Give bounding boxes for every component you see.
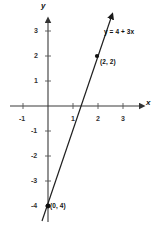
x-tick-label-1: 1 bbox=[71, 115, 75, 122]
y-tick-label-neg4: -4 bbox=[31, 202, 37, 209]
x-axis bbox=[10, 103, 140, 109]
x-tick-label-2: 2 bbox=[96, 115, 100, 122]
y-tick-label-neg1: -1 bbox=[31, 127, 37, 134]
y-tick-label-3: 3 bbox=[34, 27, 38, 34]
equation-annotation: y = 4 + 3x bbox=[104, 29, 134, 36]
x-tick-label-3: 3 bbox=[121, 115, 125, 122]
point-label-0-neg4: (0, 4) bbox=[50, 203, 66, 210]
x-axis-label: x bbox=[146, 99, 150, 107]
y-axis bbox=[45, 22, 51, 222]
y-tick-label-2: 2 bbox=[34, 52, 38, 59]
y-tick-label-1: 1 bbox=[34, 77, 38, 84]
cartesian-graph-figure: y x -1 1 2 3 3 2 1 -1 -2 -3 -4 y = 4 + 3… bbox=[0, 0, 153, 228]
data-line-series bbox=[42, 18, 111, 221]
x-tick-label-neg1: -1 bbox=[19, 115, 25, 122]
y-tick-label-neg2: -2 bbox=[31, 152, 37, 159]
y-tick-label-neg3: -3 bbox=[31, 177, 37, 184]
data-point-marker-2-2 bbox=[95, 54, 99, 58]
point-label-2-2: (2, 2) bbox=[100, 59, 116, 66]
y-axis-label: y bbox=[41, 2, 45, 10]
